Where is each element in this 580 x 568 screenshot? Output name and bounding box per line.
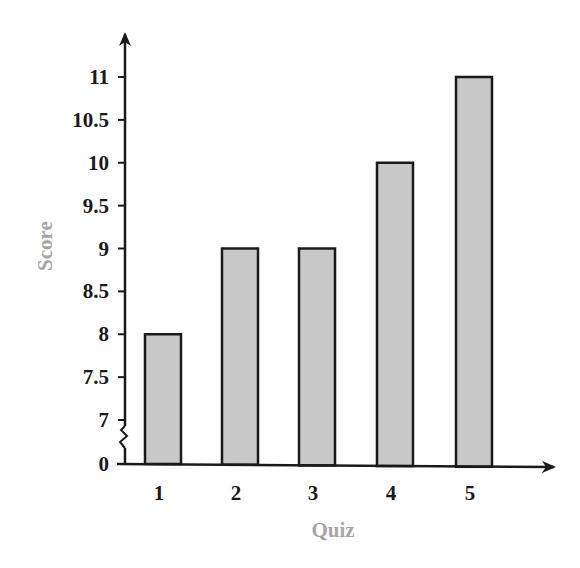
y-ticks-group: 077.588.599.51010.511: [72, 65, 125, 476]
x-tick-label: 4: [386, 481, 397, 505]
bar-quiz-5: [456, 77, 492, 467]
x-axis-title: Quiz: [311, 518, 354, 542]
y-tick-label: 8.5: [83, 279, 109, 303]
y-axis-title: Score: [33, 221, 57, 271]
x-tick-label: 5: [465, 481, 476, 505]
y-tick-label: 10.5: [72, 108, 109, 132]
x-ticks-group: 12345: [154, 481, 476, 505]
x-tick-label: 3: [308, 481, 319, 505]
x-tick-label: 2: [231, 481, 242, 505]
y-tick-label: 7.5: [83, 365, 109, 389]
bar-quiz-2: [222, 249, 258, 465]
bar-quiz-3: [299, 249, 335, 466]
axis-break-icon: [120, 426, 127, 448]
y-tick-label: 0: [99, 452, 110, 476]
y-tick-label: 11: [89, 65, 109, 89]
bar-quiz-1: [145, 334, 181, 464]
bars-group: [145, 77, 492, 467]
y-tick-label: 9: [99, 237, 110, 261]
bar-quiz-4: [377, 163, 413, 466]
y-tick-label: 10: [88, 151, 109, 175]
y-tick-label: 8: [99, 322, 110, 346]
y-tick-label: 9.5: [83, 194, 109, 218]
bar-chart: 077.588.599.51010.511 12345 Quiz Score: [0, 0, 580, 568]
x-tick-label: 1: [154, 481, 165, 505]
y-tick-label: 7: [99, 408, 110, 432]
